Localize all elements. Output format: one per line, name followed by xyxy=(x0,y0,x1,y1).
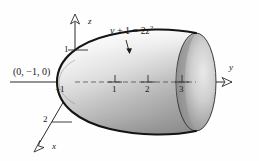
x-tick-2: 2 xyxy=(43,115,48,124)
vertex-point-label: (0, −1, 0) xyxy=(13,67,50,77)
y-tick-negative-1: −1 xyxy=(55,85,65,94)
y-tick-1: 1 xyxy=(112,85,117,94)
equation-rest: + 1 = 2 xyxy=(114,25,145,36)
x-axis-label: x xyxy=(52,142,56,151)
paraboloid-figure: y + 1 = 2z2 (0, −1, 0) z y x 1 −1 1 2 3 … xyxy=(0,0,259,161)
equation-exponent: 2 xyxy=(150,24,154,32)
equation-label: y + 1 = 2z2 xyxy=(110,26,153,36)
y-tick-3: 3 xyxy=(179,85,184,94)
y-tick-2: 2 xyxy=(145,85,150,94)
z-axis-label: z xyxy=(88,17,92,26)
z-tick-1: 1 xyxy=(64,45,69,54)
y-axis-label: y xyxy=(229,63,233,72)
